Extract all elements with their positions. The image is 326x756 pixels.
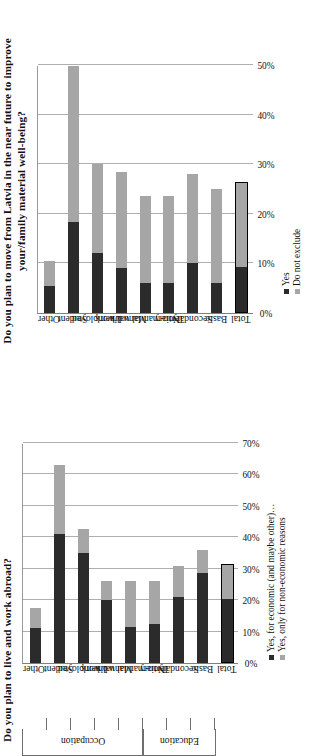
category-label: Total	[221, 664, 232, 730]
category-axis-top: OtherStudentUnemployedManual workNon-man…	[37, 314, 253, 378]
category-label: Other	[43, 314, 54, 378]
bar-segment-1	[221, 564, 234, 600]
bars-bottom	[23, 444, 238, 663]
bar-segment-1	[197, 550, 208, 574]
chart-move-from-latvia: Do you plan to move from Latvia in the n…	[0, 0, 326, 378]
bar-segment-1	[235, 182, 248, 267]
legend-label: Do not exclude	[292, 229, 302, 286]
group-label: Occupation	[61, 737, 105, 748]
axis-tick-label: 40%	[257, 111, 274, 121]
legend-label: Yes	[281, 272, 291, 286]
bar-tertiary	[163, 66, 174, 313]
bar-segment-1	[173, 566, 184, 597]
category-label: Other	[29, 664, 40, 730]
category-label: Secondary	[173, 664, 184, 730]
bar-segment-0	[149, 624, 160, 663]
legend-swatch-icon	[269, 655, 274, 660]
bar-manual-work	[116, 66, 127, 313]
bar-non-manual-work	[125, 444, 136, 663]
bar-segment-0	[54, 534, 65, 663]
bar-segment-0	[197, 573, 208, 663]
bar-segment-1	[125, 581, 136, 627]
axis-tick-label: 30%	[257, 160, 274, 170]
category-label-text: Total	[217, 664, 237, 675]
axis-tick-label: 40%	[243, 533, 260, 543]
category-label-text: Total	[231, 314, 251, 325]
legend-swatch-icon	[295, 289, 300, 294]
bar-segment-1	[78, 529, 89, 553]
bar-segment-1	[163, 196, 174, 283]
bar-segment-0	[140, 283, 151, 313]
legend-swatch-icon	[284, 289, 289, 294]
category-label-text: Basic	[192, 664, 213, 675]
axis-tick-label: 20%	[243, 596, 260, 606]
value-axis-bottom: 0%10%20%30%40%50%60%70%	[242, 444, 264, 664]
bar-segment-1	[140, 196, 151, 283]
category-label-text: Basic	[206, 314, 227, 325]
group-label: Education	[160, 737, 199, 748]
bar-segment-1	[211, 189, 222, 283]
bar-secondary	[173, 444, 184, 663]
plot-area-top	[37, 66, 253, 314]
bar-segment-0	[116, 268, 127, 313]
bar-student	[68, 66, 79, 313]
chart-live-and-work-abroad: Do you plan to live and work abroad? Occ…	[0, 378, 326, 756]
bar-segment-0	[187, 263, 198, 313]
axis-tick-label: 50%	[257, 61, 274, 71]
bar-segment-0	[92, 253, 103, 313]
bar-segment-1	[101, 581, 112, 600]
axis-tick-label: 50%	[243, 502, 260, 512]
legend-bottom: Yes, for economic (and maybe other)…Yes,…	[266, 504, 288, 660]
category-axis-bottom: OtherStudentUnemployedManual workNon-man…	[22, 664, 238, 730]
group-bracket: Occupation	[22, 729, 144, 756]
bar-segment-1	[116, 172, 127, 269]
category-label: Non-manual work	[125, 664, 136, 730]
bar-segment-0	[211, 283, 222, 313]
axis-tick-label: 10%	[257, 259, 274, 269]
bar-basic	[197, 444, 208, 663]
group-axis-bottom: OccupationEducation	[22, 730, 238, 756]
legend-item: Yes	[281, 229, 291, 294]
bar-secondary	[187, 66, 198, 313]
gridline	[38, 64, 253, 65]
group-bracket: Education	[142, 729, 216, 756]
gridline	[23, 442, 238, 443]
bar-segment-0	[44, 286, 55, 313]
axis-tick-label: 60%	[243, 470, 260, 480]
bar-segment-0	[173, 597, 184, 663]
legend-label: Yes, for economic (and maybe other)…	[266, 504, 276, 652]
bar-total	[235, 66, 246, 313]
bar-unemployed	[78, 444, 89, 663]
axis-tick-label: 10%	[243, 628, 260, 638]
bar-other	[44, 66, 55, 313]
bar-segment-0	[101, 600, 112, 663]
axis-tick-label: 30%	[243, 565, 260, 575]
bar-segment-0	[30, 628, 41, 663]
legend-swatch-icon	[280, 655, 285, 660]
bar-segment-1	[187, 174, 198, 263]
bar-non-manual-work	[140, 66, 151, 313]
bar-segment-0	[78, 553, 89, 663]
bars-top	[38, 66, 253, 313]
legend-label: Yes, only for non-economic reasons	[277, 517, 287, 652]
bar-tertiary	[149, 444, 160, 663]
bar-segment-0	[163, 283, 174, 313]
plot-area-bottom	[22, 444, 238, 664]
bar-segment-1	[54, 465, 65, 534]
bar-total	[221, 444, 232, 663]
bar-segment-0	[221, 599, 234, 663]
category-label: Basic	[211, 314, 222, 378]
bar-segment-1	[92, 164, 103, 253]
bar-segment-1	[30, 608, 41, 628]
bar-student	[54, 444, 65, 663]
category-label-text: Other	[23, 664, 45, 675]
category-label: Basic	[197, 664, 208, 730]
bar-unemployed	[92, 66, 103, 313]
legend-top: YesDo not exclude	[281, 229, 303, 294]
bar-segment-0	[125, 627, 136, 663]
category-label: Non-manual work	[139, 314, 150, 378]
chart-title-live-and-work-abroad: Do you plan to live and work abroad?	[0, 378, 14, 756]
bar-manual-work	[101, 444, 112, 663]
axis-tick-label: 70%	[243, 439, 260, 449]
bar-segment-1	[149, 581, 160, 623]
